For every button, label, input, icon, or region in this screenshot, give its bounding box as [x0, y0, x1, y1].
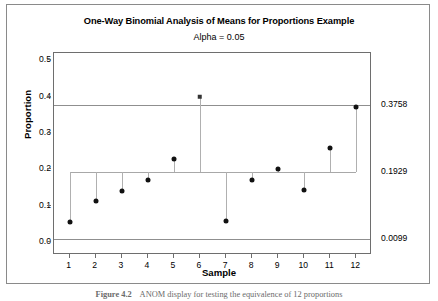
data-point-marker[interactable]: [276, 167, 281, 172]
chart-title: One-Way Binomial Analysis of Means for P…: [7, 16, 431, 26]
center-value-label: 0.1929: [381, 166, 407, 176]
y-axis-tick-mark: [47, 241, 51, 242]
x-axis-tick-mark: [225, 254, 226, 258]
data-point-marker[interactable]: [119, 188, 124, 193]
plot-surface: [54, 53, 370, 253]
data-point-marker[interactable]: [93, 199, 98, 204]
data-point-marker[interactable]: [67, 219, 72, 224]
data-stem: [200, 97, 201, 172]
data-point-marker[interactable]: [145, 177, 150, 182]
data-point-marker[interactable]: [354, 104, 359, 109]
x-axis-tick-mark: [329, 254, 330, 258]
figure-caption-number: Figure 4.2: [96, 290, 132, 299]
data-stem: [356, 107, 357, 173]
figure-caption-text: ANOM display for testing the equivalence…: [140, 290, 343, 299]
data-stem: [226, 172, 227, 221]
data-point-marker[interactable]: [302, 187, 307, 192]
x-axis-title: Sample: [7, 267, 431, 278]
x-axis-tick-mark: [173, 254, 174, 258]
chart-subtitle: Alpha = 0.05: [7, 32, 431, 42]
lower-decision-limit-line: [54, 239, 370, 240]
x-axis-tick-mark: [355, 254, 356, 258]
y-axis-tick-labels: 0.00.10.20.30.40.5: [21, 52, 51, 254]
ldl-value-label: 0.0099: [381, 233, 407, 243]
upper-decision-limit-line: [54, 105, 370, 106]
x-axis-tick-mark: [199, 254, 200, 258]
plot-area: [53, 52, 371, 254]
data-point-marker[interactable]: [250, 177, 255, 182]
x-axis-tick-mark: [69, 254, 70, 258]
y-axis-tick-mark: [47, 205, 51, 206]
x-axis-tick-mark: [303, 254, 304, 258]
y-axis-tick-mark: [47, 59, 51, 60]
figure-page: One-Way Binomial Analysis of Means for P…: [0, 0, 438, 301]
x-axis-tick-mark: [251, 254, 252, 258]
figure-caption: Figure 4.2 ANOM display for testing the …: [0, 290, 438, 299]
x-axis-tick-mark: [121, 254, 122, 258]
data-point-marker[interactable]: [328, 145, 333, 150]
data-point-marker[interactable]: [198, 94, 203, 99]
udl-value-label: 0.3758: [381, 99, 407, 109]
y-axis-tick-mark: [47, 132, 51, 133]
x-axis-tick-mark: [147, 254, 148, 258]
chart-container: One-Way Binomial Analysis of Means for P…: [6, 4, 430, 284]
data-point-marker[interactable]: [171, 157, 176, 162]
x-axis-tick-mark: [277, 254, 278, 258]
limit-annotations: 0.37580.19290.0099: [379, 52, 431, 254]
y-axis-tick-mark: [47, 168, 51, 169]
x-axis-tick-mark: [95, 254, 96, 258]
center-line: [70, 172, 357, 173]
y-axis-tick-mark: [47, 96, 51, 97]
data-point-marker[interactable]: [224, 219, 229, 224]
data-stem: [70, 172, 71, 222]
data-stem: [330, 148, 331, 172]
data-stem: [96, 172, 97, 201]
